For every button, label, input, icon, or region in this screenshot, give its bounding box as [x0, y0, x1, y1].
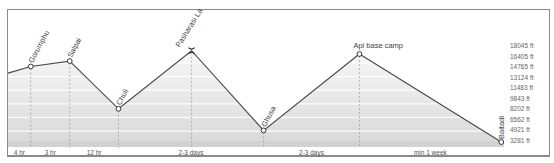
- waypoint-marker[interactable]: [28, 64, 33, 69]
- waypoint-marker[interactable]: [357, 52, 362, 57]
- base-band: [8, 141, 504, 147]
- y-tick-label: 4921 ft: [510, 126, 530, 133]
- waypoint-marker[interactable]: [499, 140, 504, 145]
- segment-duration-label: 2-3 days: [179, 149, 205, 157]
- waypoint-marker[interactable]: [116, 106, 121, 111]
- y-tick-label: 6562 ft: [510, 116, 530, 123]
- waypoint-label: Salpai: [66, 36, 84, 59]
- waypoint-label: Baitadi: [497, 116, 506, 139]
- y-tick-label: 13124 ft: [510, 74, 534, 81]
- segment-duration-label: min 1 week: [414, 149, 448, 156]
- waypoint-marker[interactable]: [67, 59, 72, 64]
- y-tick-label: 11483 ft: [510, 84, 533, 91]
- y-tick-label: 8202 ft: [510, 105, 530, 112]
- y-tick-label: 14765 ft: [510, 63, 534, 70]
- elevation-profile-chart: GorumphuSalpaiChuliPasharasi LaGhusaApi …: [0, 0, 554, 163]
- segment-duration-label: 4 hr: [14, 149, 26, 156]
- segment-duration-label: 3 hr: [45, 149, 57, 156]
- segment-duration-label: 2-3 days: [299, 149, 325, 157]
- y-tick-label: 16405 ft: [510, 53, 534, 60]
- waypoint-marker[interactable]: [261, 128, 266, 133]
- waypoint-label: Api base camp: [353, 41, 403, 50]
- waypoint-label: Gorumphu: [27, 29, 52, 65]
- y-tick-label: 18045 ft: [510, 42, 534, 49]
- y-tick-label: 3281 ft: [510, 137, 530, 144]
- y-tick-label: 9843 ft: [510, 95, 530, 102]
- segment-duration-label: 12 hr: [87, 149, 103, 156]
- waypoint-label: Pasharasi La: [174, 6, 205, 49]
- elevation-area-fill: [8, 51, 501, 147]
